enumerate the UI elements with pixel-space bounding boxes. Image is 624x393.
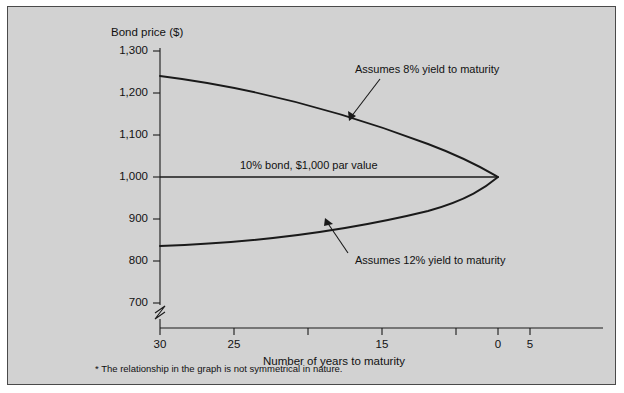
x-tick-label-25: 25	[214, 339, 254, 351]
y-tick-label-800: 800	[70, 255, 148, 267]
y-tick-label-700: 700	[70, 297, 148, 309]
figure-container: Bond price ($) 1,300 1,200 1,100 1,000 9…	[0, 0, 624, 393]
annotation-par-value: 10% bond, $1,000 par value	[240, 160, 378, 171]
y-tick-marks	[153, 51, 160, 303]
x-tick-label-15: 15	[362, 339, 402, 351]
chart-plot-area	[8, 7, 615, 384]
annotation-arrow-12-percent	[324, 218, 348, 253]
curve-12-percent-yield	[160, 177, 498, 246]
annotation-12-percent-yield: Assumes 12% yield to maturity	[355, 255, 505, 266]
x-tick-label-30: 30	[140, 339, 180, 351]
y-tick-label-1300: 1,300	[70, 45, 148, 57]
y-tick-label-1000: 1,000	[70, 171, 148, 183]
chart-panel: Bond price ($) 1,300 1,200 1,100 1,000 9…	[7, 6, 616, 385]
y-axis-title: Bond price ($)	[111, 27, 183, 39]
annotation-arrow-8-percent	[348, 79, 380, 121]
y-axis-break-icon	[155, 306, 165, 319]
x-tick-label-0: 0	[478, 339, 518, 351]
y-tick-label-900: 900	[70, 213, 148, 225]
annotation-8-percent-yield: Assumes 8% yield to maturity	[355, 64, 499, 75]
y-tick-label-1100: 1,100	[70, 129, 148, 141]
x-tick-marks	[160, 328, 530, 335]
y-tick-label-1200: 1,200	[70, 87, 148, 99]
chart-footnote: * The relationship in the graph is not s…	[95, 364, 342, 374]
